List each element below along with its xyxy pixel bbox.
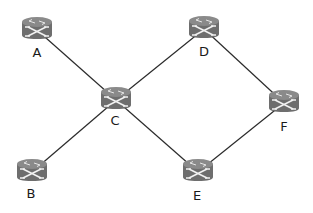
router-icon — [17, 159, 47, 181]
router-icon — [189, 16, 219, 38]
node-b: B — [17, 159, 47, 201]
edges — [32, 29, 284, 172]
node-label: D — [199, 44, 209, 59]
nodes: ABCDEF — [17, 16, 299, 203]
router-icon — [183, 159, 213, 181]
router-icon — [101, 87, 131, 109]
node-label: B — [27, 186, 36, 201]
edge-c-b — [32, 100, 116, 172]
node-e: E — [183, 159, 213, 203]
network-diagram: ABCDEF — [0, 0, 313, 213]
router-icon — [269, 90, 299, 112]
edge-d-f — [204, 29, 284, 103]
node-c: C — [101, 87, 131, 128]
router-icon — [22, 17, 52, 39]
node-label: C — [110, 113, 119, 128]
node-label: F — [280, 119, 287, 134]
node-label: A — [33, 45, 42, 60]
node-a: A — [22, 17, 52, 60]
node-label: E — [193, 188, 201, 203]
edge-c-d — [116, 29, 204, 100]
